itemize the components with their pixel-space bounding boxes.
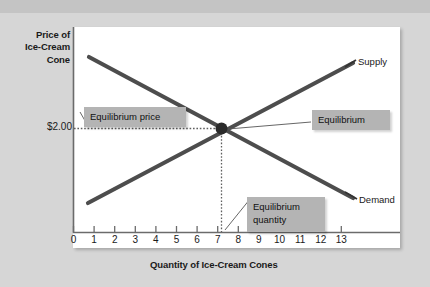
x-tick-label-10: 10 (273, 234, 287, 245)
x-tick-label-1: 1 (87, 234, 101, 245)
x-tick-label-3: 3 (128, 234, 142, 245)
callout-equilibrium-quantity: Equilibrium quantity (247, 197, 325, 232)
x-tick-label-12: 12 (314, 234, 328, 245)
x-tick-label-5: 5 (170, 234, 184, 245)
callout-equilibrium-quantity-line1: Equilibrium (253, 200, 319, 213)
figure-root: Price of Ice-Cream Cone Quantity of Ice-… (0, 0, 430, 287)
demand-curve-label: Demand (359, 194, 395, 205)
x-tick-label-9: 9 (252, 234, 266, 245)
y-axis-title-line2: Ice-Cream (0, 41, 70, 53)
x-tick-label-2: 2 (108, 234, 122, 245)
y-tick-label-price: $2.00 (20, 121, 72, 132)
x-axis-title: Quantity of Ice-Cream Cones (150, 259, 410, 270)
equilibrium-point (216, 123, 228, 135)
y-axis-title-line1: Price of (0, 29, 70, 41)
x-tick-label-13: 13 (334, 234, 348, 245)
x-tick-label-0: 0 (67, 234, 81, 245)
y-axis-title-line3: Cone (0, 54, 70, 66)
supply-curve-label: Supply (358, 56, 387, 67)
x-tick-label-4: 4 (149, 234, 163, 245)
y-axis-title: Price of Ice-Cream Cone (0, 29, 70, 66)
callout-equilibrium-quantity-line2: quantity (253, 213, 319, 226)
x-tick-label-6: 6 (190, 234, 204, 245)
callout-equilibrium-price: Equilibrium price (84, 107, 186, 127)
x-tick-label-11: 11 (293, 234, 307, 245)
callout-equilibrium: Equilibrium (312, 110, 390, 130)
x-tick-label-7: 7 (211, 234, 225, 245)
x-tick-label-8: 8 (231, 234, 245, 245)
